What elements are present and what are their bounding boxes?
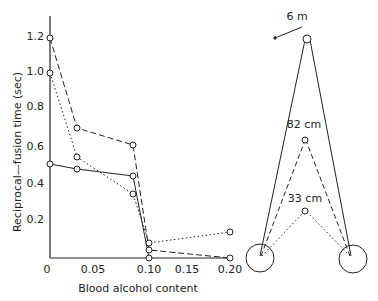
target-82cm	[302, 137, 308, 143]
y-tick: 0.4	[27, 177, 45, 190]
x-tick: 0	[44, 263, 51, 276]
convergence-diagram	[246, 27, 367, 273]
y-tick: 1.2	[27, 30, 45, 43]
left-eye-circle	[246, 244, 274, 272]
series-82cm-dashed	[47, 35, 233, 261]
target-33cm	[302, 208, 308, 214]
x-axis-label: Blood alcohol content	[78, 282, 198, 295]
chart-axes	[50, 16, 232, 258]
distance-label-6m: 6 m	[286, 10, 307, 23]
series-33cm-dotted	[47, 70, 233, 246]
y-tick: 0.6	[27, 140, 45, 153]
y-tick-labels: 0.2 0.4 0.6 0.8 1.0 1.2	[27, 30, 45, 226]
x-tick: 0.05	[81, 263, 106, 276]
x-tick: 0.10	[137, 263, 162, 276]
pointer-line-6m	[275, 27, 302, 38]
x-tick: 0.20	[218, 263, 243, 276]
x-tick: 0.15	[175, 263, 200, 276]
distance-label-33cm: 33 cm	[288, 192, 322, 205]
series-6m-solid	[47, 161, 152, 261]
distance-label-82cm: 82 cm	[287, 118, 321, 131]
y-tick: 0.8	[27, 100, 45, 113]
target-6m	[303, 35, 311, 43]
x-tick-labels: 0 0.05 0.10 0.15 0.20	[44, 263, 243, 276]
right-eye-circle	[339, 245, 367, 273]
y-axis-label: Reciprocal—fusion time (sec)	[11, 72, 24, 232]
figure: 0.2 0.4 0.6 0.8 1.0 1.2 0 0.05 0.10 0.15…	[0, 0, 378, 301]
y-tick: 0.2	[27, 213, 45, 226]
y-tick: 1.0	[27, 65, 45, 78]
